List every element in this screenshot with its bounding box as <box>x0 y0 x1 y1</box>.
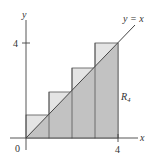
region-label-main: R <box>120 91 127 102</box>
region-label: R4 <box>120 91 131 104</box>
y-tick-label-4: 4 <box>13 38 18 49</box>
curve-label: y = x <box>122 13 144 24</box>
origin-label: 0 <box>15 143 20 154</box>
y-axis-label: y <box>21 9 27 20</box>
x-axis-label: x <box>139 132 145 143</box>
riemann-sum-diagram: y x 0 4 4 y = x R4 <box>0 0 158 158</box>
region-label-subscript: 4 <box>127 96 131 104</box>
x-tick-label-4: 4 <box>115 144 120 155</box>
